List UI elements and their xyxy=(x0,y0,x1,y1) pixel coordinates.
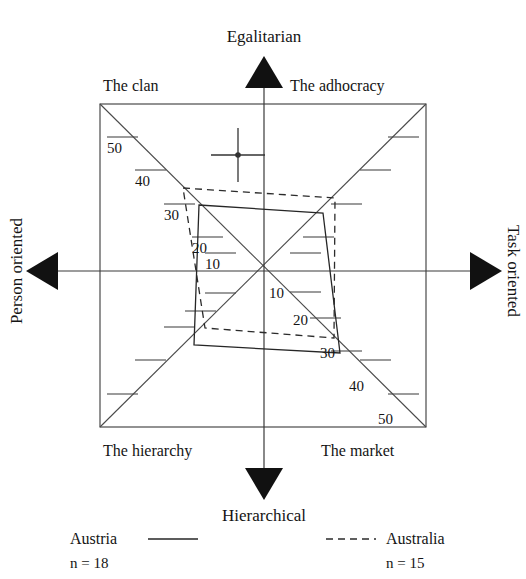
marker-center-dot xyxy=(235,152,241,158)
axis-title-hierarchical: Hierarchical xyxy=(222,506,306,525)
quadrant-label-market: The market xyxy=(321,442,395,459)
arrowhead-right-icon xyxy=(470,252,502,290)
legend-n-austria: n = 18 xyxy=(70,555,108,571)
legend-entry-australia: Australia n = 15 xyxy=(326,530,445,571)
axis-title-task-oriented: Task oriented xyxy=(504,225,523,317)
tick-label-clan-10: 10 xyxy=(205,256,220,272)
tick-label-market-50: 50 xyxy=(378,411,393,427)
error-bar-marker xyxy=(211,128,265,182)
tick-label-clan-20: 20 xyxy=(192,240,207,256)
cvf-chart-svg: 50 40 30 20 10 10 20 30 40 50 The clan T… xyxy=(0,0,526,579)
legend-label-australia: Australia xyxy=(386,530,445,547)
tick-label-market-20: 20 xyxy=(293,312,308,328)
diagonal-axes xyxy=(100,104,426,427)
axis-title-person-oriented: Person oriented xyxy=(7,217,26,324)
tick-label-clan-40: 40 xyxy=(135,173,150,189)
quadrant-label-hierarchy: The hierarchy xyxy=(103,442,192,460)
arrowhead-up-icon xyxy=(245,56,283,88)
competing-values-framework-figure: 50 40 30 20 10 10 20 30 40 50 The clan T… xyxy=(0,0,526,579)
tick-label-market-10: 10 xyxy=(269,285,284,301)
legend: Austria n = 18 Australia n = 15 xyxy=(70,530,445,571)
tick-label-clan-50: 50 xyxy=(107,140,122,156)
tick-label-market-30: 30 xyxy=(320,345,335,361)
tick-label-market-40: 40 xyxy=(349,378,364,394)
ticks-adhocracy xyxy=(290,137,419,253)
ticks-hierarchy xyxy=(107,293,236,394)
series-polygon-austria xyxy=(194,205,340,353)
arrowhead-down-icon xyxy=(245,468,283,500)
tick-label-clan-30: 30 xyxy=(164,207,179,223)
axis-title-egalitarian: Egalitarian xyxy=(227,27,302,46)
legend-label-austria: Austria xyxy=(70,530,117,547)
arrowhead-left-icon xyxy=(26,252,58,290)
legend-n-australia: n = 15 xyxy=(386,555,424,571)
legend-entry-austria: Austria n = 18 xyxy=(70,530,198,571)
tick-labels-market: 10 20 30 40 50 xyxy=(269,285,393,427)
quadrant-label-adhocracy: The adhocracy xyxy=(290,77,385,95)
quadrant-label-clan: The clan xyxy=(103,77,159,94)
main-axes xyxy=(26,56,502,500)
